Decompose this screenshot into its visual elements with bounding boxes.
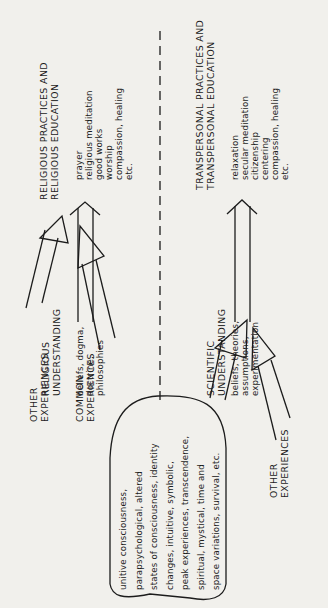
list-item: etc. bbox=[124, 88, 134, 180]
arrow-other-experiences-top bbox=[26, 216, 68, 308]
list-item: etc. bbox=[280, 88, 290, 180]
text-line: spiritual, mystical, time and bbox=[194, 436, 210, 590]
title-line: RELIGIOUS bbox=[40, 309, 51, 396]
title-line: TRANSPERSONAL PRACTICES AND bbox=[194, 20, 205, 190]
list-item: beliefs, dogma, bbox=[75, 327, 85, 396]
label-line: OTHER bbox=[28, 353, 39, 422]
list-item: prayer bbox=[74, 88, 84, 180]
title-line: TRANSPERSONAL EDUCATION bbox=[205, 20, 216, 190]
list-item: assumptions, bbox=[240, 321, 250, 396]
list-item: relaxation bbox=[230, 88, 240, 180]
list-item: experimentation bbox=[250, 321, 260, 396]
title-line: UNDERSTANDING bbox=[216, 309, 227, 396]
transpersonal-practices-title: TRANSPERSONAL PRACTICES AND TRANSPERSONA… bbox=[194, 20, 216, 190]
diagram-canvas: OTHER EXPERIENCES COMMON EXPERIENCES REL… bbox=[0, 0, 328, 608]
list-item: religious meditation bbox=[84, 88, 94, 180]
list-item: good works bbox=[94, 88, 104, 180]
scientific-understanding-title: SCIENTIFIC UNDERSTANDING bbox=[205, 309, 227, 396]
core-experiences-text: unitive consciousness, parapsychological… bbox=[116, 436, 225, 590]
list-item: centering bbox=[260, 88, 270, 180]
list-item: compassion, healing bbox=[114, 88, 124, 180]
title-line: UNDERSTANDING bbox=[51, 309, 62, 396]
title-line: SCIENTIFIC bbox=[205, 309, 216, 396]
religious-understanding-title: RELIGIOUS UNDERSTANDING bbox=[40, 309, 62, 396]
title-line: RELIGIOUS PRACTICES AND bbox=[38, 62, 49, 200]
list-item: doctrine, bbox=[85, 327, 95, 396]
list-item: philosophies bbox=[95, 327, 105, 396]
arrow-religious-understanding-to-practices bbox=[70, 202, 100, 322]
text-line: parapsychological, altered bbox=[132, 436, 148, 590]
text-line: changes, intuitive, symbolic, bbox=[163, 436, 179, 590]
title-line: RELIGIOUS EDUCATION bbox=[49, 62, 60, 200]
text-line: states of consciousness, identity bbox=[147, 436, 163, 590]
text-line: unitive consciousness, bbox=[116, 436, 132, 590]
label-line: EXPERIENCES bbox=[279, 429, 290, 498]
transpersonal-practices-items: relaxation secular meditation citizenshi… bbox=[230, 88, 290, 180]
text-line: space variations, survival, etc. bbox=[209, 436, 225, 590]
label-line: OTHER bbox=[268, 429, 279, 498]
list-item: beliefs, theories, bbox=[230, 321, 240, 396]
scientific-understanding-items: beliefs, theories, assumptions, experime… bbox=[230, 321, 260, 396]
arrow-scientific-understanding-to-practices bbox=[227, 200, 257, 322]
religious-practices-items: prayer religious meditation good works w… bbox=[74, 88, 134, 180]
list-item: compassion, healing bbox=[270, 88, 280, 180]
list-item: secular meditation bbox=[240, 88, 250, 180]
list-item: citizenship bbox=[250, 88, 260, 180]
religious-understanding-items: beliefs, dogma, doctrine, philosophies bbox=[75, 327, 105, 396]
list-item: worship bbox=[104, 88, 114, 180]
religious-practices-title: RELIGIOUS PRACTICES AND RELIGIOUS EDUCAT… bbox=[38, 62, 60, 200]
text-line: peak experiences, transcendence, bbox=[178, 436, 194, 590]
other-experiences-bottom-label: OTHER EXPERIENCES bbox=[268, 429, 290, 498]
